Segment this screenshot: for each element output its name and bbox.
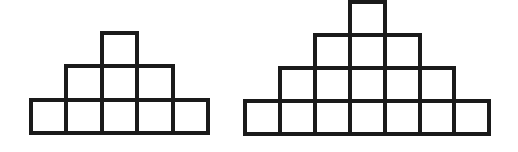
square-cell [385, 35, 420, 68]
square-cell [173, 100, 208, 133]
square-cell [66, 100, 101, 133]
square-cell [280, 68, 315, 101]
square-cell [420, 68, 455, 101]
square-cell [280, 101, 315, 134]
square-cell [245, 101, 280, 134]
right-staircase-pyramid [245, 2, 489, 134]
square-cell [420, 101, 455, 134]
square-cell [31, 100, 66, 133]
square-cell [66, 66, 101, 99]
square-cell [102, 33, 137, 66]
square-cell [102, 66, 137, 99]
square-cell [137, 66, 172, 99]
square-cell [137, 100, 172, 133]
square-cell [385, 68, 420, 101]
figure-canvas [0, 0, 518, 152]
square-cell [454, 101, 489, 134]
square-cell [385, 101, 420, 134]
square-cell [350, 68, 385, 101]
square-cell [102, 100, 137, 133]
square-cell [315, 35, 350, 68]
square-cell [315, 68, 350, 101]
squares-diagram [0, 0, 518, 152]
left-staircase-pyramid [31, 33, 208, 133]
square-cell [350, 101, 385, 134]
square-cell [350, 35, 385, 68]
square-cell [350, 2, 385, 35]
square-cell [315, 101, 350, 134]
